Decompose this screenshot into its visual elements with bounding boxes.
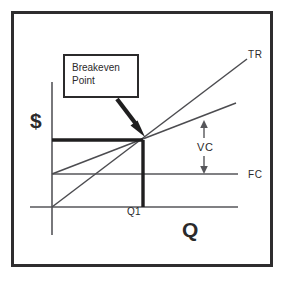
breakeven-point-callout-label: Breakeven Point bbox=[72, 62, 120, 87]
variable-cost-label: VC bbox=[197, 142, 213, 154]
total-revenue-label: TR bbox=[248, 50, 263, 61]
x-axis-tick-label-q1: Q1 bbox=[127, 207, 141, 218]
breakeven-chart-figure: Breakeven Point $ Q Q1 TR FC VC bbox=[0, 0, 288, 284]
chart-plot-area bbox=[0, 0, 288, 284]
fixed-cost-label: FC bbox=[248, 170, 263, 181]
x-axis-label: Q bbox=[182, 219, 198, 241]
breakeven-point-callout: Breakeven Point bbox=[63, 54, 139, 98]
callout-arrow bbox=[117, 99, 145, 137]
y-axis-label: $ bbox=[30, 110, 42, 132]
